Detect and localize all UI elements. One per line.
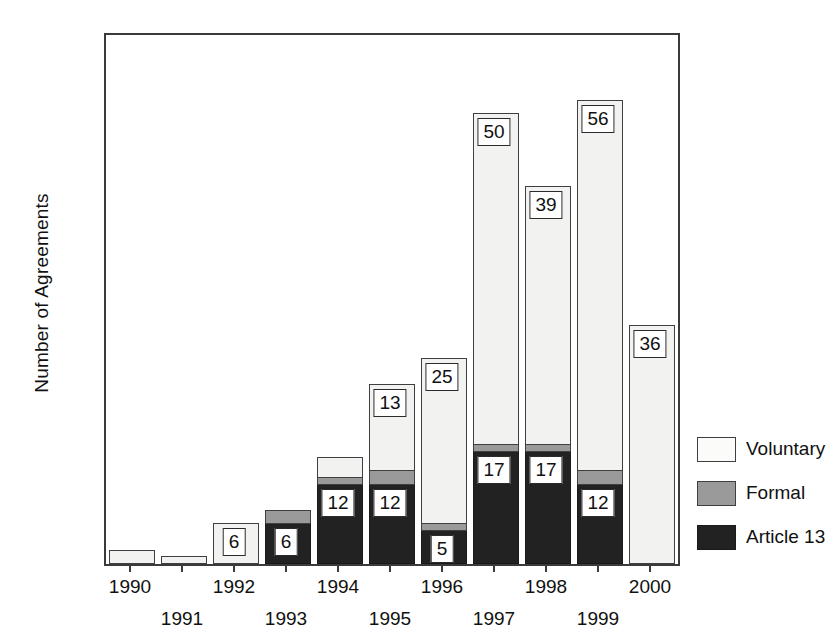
bar-value-label: 12 [373,489,406,517]
bar-value-label: 13 [373,389,406,417]
bar-value-label: 6 [223,528,246,556]
bar-group[interactable] [629,326,675,564]
legend-swatch-formal [697,481,736,506]
x-tick-label: 1996 [400,576,484,598]
x-tick-label: 1998 [504,576,588,598]
bar-segment-voluntary[interactable] [577,100,623,472]
bar-segment-voluntary[interactable] [629,325,675,564]
bar-value-label: 12 [581,489,614,517]
bar-value-label: 50 [477,118,510,146]
y-axis-title: Number of Agreements [31,143,53,443]
bar-value-label: 17 [477,456,510,484]
x-tick-label: 1992 [192,576,276,598]
bar-group[interactable] [161,557,207,564]
x-tick-label: 1995 [348,608,432,630]
x-tick-label: 1994 [296,576,380,598]
legend-label: Article 13 [746,526,825,548]
bar-chart: Number of Agreements 020406080 199019911… [0,0,835,644]
x-tick-label: 1991 [140,608,224,630]
bar-segment-voluntary[interactable] [161,556,207,564]
legend-swatch-voluntary [697,437,736,462]
bar-segment-voluntary[interactable] [525,186,571,445]
x-tick-label: 1999 [556,608,640,630]
bar-group[interactable] [473,114,519,564]
legend-label: Voluntary [746,438,825,460]
bar-segment-voluntary[interactable] [109,550,155,564]
bar-segment-voluntary[interactable] [317,457,363,478]
bar-value-label: 36 [633,330,666,358]
legend-label: Formal [746,482,805,504]
bar-value-label: 17 [529,456,562,484]
bar-value-label: 12 [321,489,354,517]
legend-swatch-article13 [697,525,736,550]
x-tick-label: 1997 [452,608,536,630]
x-tick-label: 1993 [244,608,328,630]
bar-value-label: 56 [581,105,614,133]
x-tick-label: 2000 [608,576,692,598]
bar-value-label: 6 [275,528,298,556]
bar-segment-formal[interactable] [369,470,415,484]
bar-segment-formal[interactable] [265,510,311,524]
bar-segment-formal[interactable] [577,470,623,484]
x-tick-label: 1990 [88,576,172,598]
bar-segment-voluntary[interactable] [473,113,519,445]
bar-group[interactable] [525,187,571,564]
bar-value-label: 5 [431,535,454,563]
bar-group[interactable] [109,551,155,564]
bar-value-label: 39 [529,191,562,219]
bar-value-label: 25 [425,363,458,391]
